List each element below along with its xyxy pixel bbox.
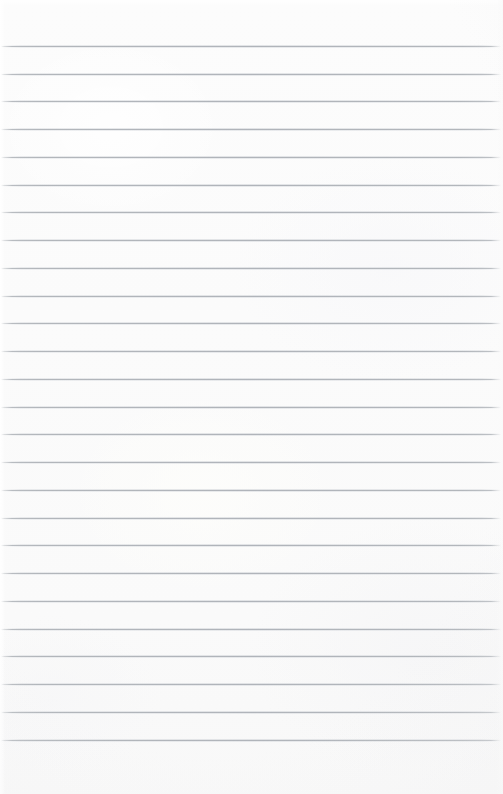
lined-paper-page xyxy=(0,0,503,794)
writing-area[interactable] xyxy=(0,0,503,794)
